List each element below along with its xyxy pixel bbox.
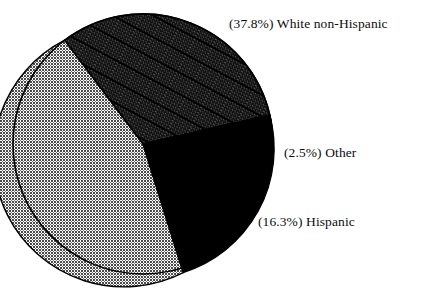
pie-chart-svg [0,0,429,290]
pie-label-other: (2.5%) Other [284,145,356,161]
pie-chart-page: (37.8%) White non-Hispanic (2.5%) Other … [0,0,429,290]
pie-label-hispanic: (16.3%) Hispanic [258,214,355,230]
pie-chart-figure [0,0,429,290]
pie-label-white-non-hispanic: (37.8%) White non-Hispanic [229,16,388,32]
